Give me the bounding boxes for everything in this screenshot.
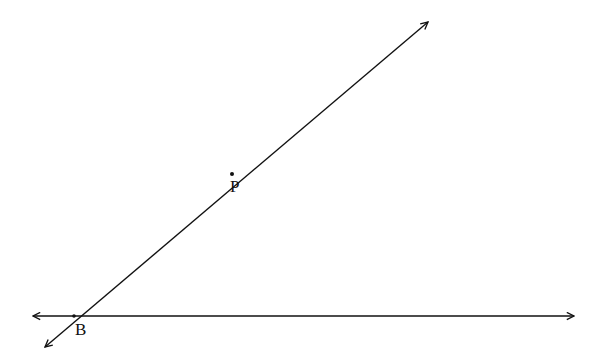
- point-p-dot: [230, 172, 234, 176]
- point-b-dot: [72, 314, 76, 318]
- geometry-diagram: P B: [0, 0, 604, 363]
- point-b-label: B: [75, 320, 86, 339]
- point-p-label: P: [230, 177, 239, 196]
